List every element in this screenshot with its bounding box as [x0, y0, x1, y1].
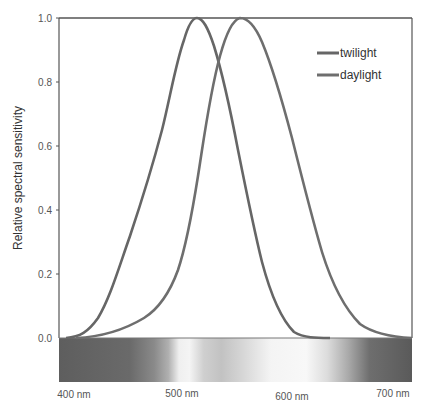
- y-tick-label: 0.0: [38, 333, 52, 344]
- x-tick-label: 700 nm: [376, 388, 409, 399]
- y-axis-ticks: 1.0 0.8 0.6 0.4 0.2 0.0: [38, 13, 59, 344]
- x-tick-label: 600 nm: [275, 391, 308, 402]
- y-tick-label: 0.2: [38, 269, 52, 280]
- legend-label-daylight: daylight: [340, 68, 382, 82]
- spectrum-bar: [59, 338, 412, 382]
- y-axis-title: Relative spectral sensitivity: [11, 106, 25, 250]
- spectral-sensitivity-chart: Relative spectral sensitivity 1.0 0.8 0.…: [0, 0, 430, 413]
- y-tick-label: 0.4: [38, 205, 52, 216]
- x-axis-ticks: 400 nm 500 nm 600 nm 700 nm: [57, 388, 409, 402]
- y-tick-label: 0.8: [38, 77, 52, 88]
- y-tick-label: 0.6: [38, 141, 52, 152]
- x-tick-label: 400 nm: [57, 389, 90, 400]
- legend: twilight daylight: [317, 46, 382, 82]
- legend-label-twilight: twilight: [340, 46, 377, 60]
- y-tick-label: 1.0: [38, 13, 52, 24]
- x-tick-label: 500 nm: [165, 388, 198, 399]
